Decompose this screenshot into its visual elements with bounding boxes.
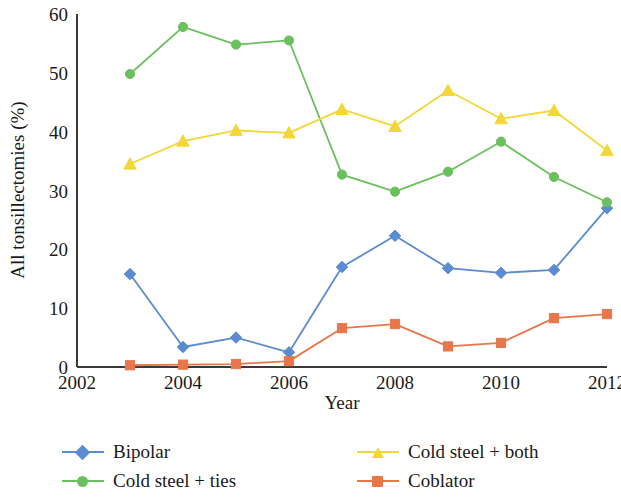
series-line: [130, 90, 607, 164]
legend-swatch: [357, 444, 399, 460]
x-tick-label: 2002: [58, 372, 96, 393]
data-point-marker: [337, 170, 346, 179]
chart-legend: BipolarCold steel + bothCold steel + tie…: [62, 437, 607, 495]
data-point-marker: [284, 357, 293, 366]
legend-entry[interactable]: Cold steel + ties: [62, 466, 357, 495]
data-point-marker: [284, 36, 293, 45]
data-point-marker: [549, 314, 558, 323]
series-line: [130, 314, 607, 365]
data-point-marker: [230, 332, 242, 344]
y-axis-title: All tonsillectomies (%): [7, 101, 29, 278]
legend-label: Cold steel + both: [408, 441, 539, 463]
y-tick-label: 60: [49, 4, 68, 25]
series-line: [130, 208, 607, 352]
data-point-marker: [496, 137, 505, 146]
y-tick-label: 20: [49, 239, 68, 260]
data-point-marker: [442, 262, 454, 274]
data-point-marker: [390, 319, 399, 328]
y-tick-labels: 0102030405060: [49, 4, 68, 378]
data-point-marker: [336, 261, 348, 273]
legend-entry[interactable]: Coblator: [357, 466, 607, 495]
legend-swatch: [357, 473, 399, 489]
data-series: [124, 84, 613, 169]
series-line: [130, 27, 607, 202]
legend-label: Bipolar: [113, 441, 170, 463]
plot-area: 0102030405060 200220042006200820102012 Y…: [0, 0, 621, 425]
data-point-marker: [602, 198, 611, 207]
series-layer: [124, 22, 613, 369]
x-tick-label: 2008: [376, 372, 414, 393]
x-axis-title: Year: [324, 392, 360, 413]
legend-marker-circle-icon: [77, 476, 88, 487]
data-point-marker: [549, 172, 558, 181]
legend-swatch: [62, 473, 104, 489]
y-tick-label: 30: [49, 181, 68, 202]
data-point-marker: [178, 360, 187, 369]
data-point-marker: [124, 158, 136, 169]
legend-entry[interactable]: Bipolar: [62, 437, 357, 466]
data-point-marker: [443, 342, 452, 351]
data-point-marker: [178, 22, 187, 31]
data-point-marker: [495, 267, 507, 279]
data-point-marker: [336, 103, 348, 114]
legend-entry[interactable]: Cold steel + both: [357, 437, 607, 466]
x-tick-labels: 200220042006200820102012: [58, 372, 621, 393]
data-point-marker: [125, 361, 134, 370]
data-point-marker: [389, 230, 401, 242]
line-chart-figure: 0102030405060 200220042006200820102012 Y…: [0, 0, 621, 498]
data-point-marker: [443, 167, 452, 176]
data-point-marker: [601, 144, 613, 155]
data-point-marker: [442, 84, 454, 95]
y-tick-label: 40: [49, 122, 68, 143]
data-series: [125, 22, 611, 207]
y-tick-label: 10: [49, 298, 68, 319]
legend-label: Coblator: [408, 470, 475, 492]
data-series: [124, 202, 613, 358]
data-point-marker: [231, 359, 240, 368]
data-series: [125, 309, 611, 369]
data-point-marker: [548, 104, 560, 115]
data-point-marker: [602, 309, 611, 318]
legend-marker-triangle-icon: [372, 447, 384, 458]
chart-svg: 0102030405060 200220042006200820102012 Y…: [0, 0, 621, 425]
data-point-marker: [125, 69, 134, 78]
x-tick-label: 2010: [482, 372, 520, 393]
data-point-marker: [390, 187, 399, 196]
x-tick-label: 2004: [164, 372, 203, 393]
data-point-marker: [231, 40, 240, 49]
data-point-marker: [496, 338, 505, 347]
x-tick-label: 2006: [270, 372, 308, 393]
x-tick-label: 2012: [588, 372, 621, 393]
legend-swatch: [62, 444, 104, 460]
data-point-marker: [337, 324, 346, 333]
legend-marker-square-icon: [372, 476, 383, 487]
y-tick-label: 50: [49, 63, 68, 84]
legend-marker-diamond-icon: [75, 444, 91, 460]
legend-label: Cold steel + ties: [113, 470, 236, 492]
